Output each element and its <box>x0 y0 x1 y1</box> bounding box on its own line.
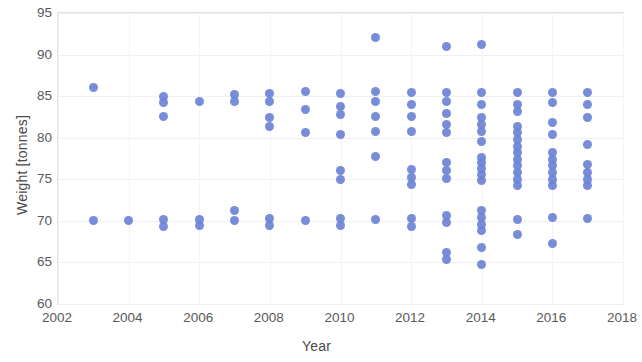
data-point <box>265 97 274 106</box>
y-tick-label: 80 <box>18 129 52 144</box>
data-point <box>477 243 486 252</box>
data-point <box>371 112 380 121</box>
x-tick-label: 2018 <box>594 310 642 325</box>
data-point <box>477 100 486 109</box>
data-point <box>301 128 310 137</box>
x-tick-label: 2008 <box>241 310 297 325</box>
data-point <box>371 127 380 136</box>
gridline-vertical <box>623 13 624 304</box>
data-point <box>195 97 204 106</box>
gridline-vertical <box>199 13 200 304</box>
data-point <box>159 98 168 107</box>
gridline-vertical <box>270 13 271 304</box>
gridline-vertical <box>58 13 59 304</box>
data-point <box>265 221 274 230</box>
gridline-vertical <box>341 13 342 304</box>
data-point <box>442 109 451 118</box>
data-point <box>442 218 451 227</box>
data-point <box>407 127 416 136</box>
data-point <box>371 33 380 42</box>
data-point <box>159 112 168 121</box>
data-point <box>583 181 592 190</box>
data-point <box>442 97 451 106</box>
data-point <box>548 239 557 248</box>
x-tick-label: 2004 <box>100 310 156 325</box>
y-tick-label: 75 <box>18 171 52 186</box>
plot-area <box>57 12 624 305</box>
data-point <box>548 98 557 107</box>
data-point <box>477 137 486 146</box>
x-axis-title: Year <box>0 338 633 354</box>
data-point <box>548 130 557 139</box>
x-tick-label: 2012 <box>382 310 438 325</box>
data-point <box>371 87 380 96</box>
data-point <box>513 107 522 116</box>
data-point <box>548 213 557 222</box>
data-point <box>477 40 486 49</box>
data-point <box>407 88 416 97</box>
data-point <box>195 221 204 230</box>
data-point <box>301 216 310 225</box>
gridline-horizontal <box>58 304 623 305</box>
data-point <box>230 206 239 215</box>
data-point <box>477 176 486 185</box>
y-tick-label: 85 <box>18 88 52 103</box>
data-point <box>407 180 416 189</box>
data-point <box>442 128 451 137</box>
data-point <box>583 100 592 109</box>
data-point <box>513 215 522 224</box>
gridline-vertical <box>411 13 412 304</box>
y-tick-label: 90 <box>18 46 52 61</box>
data-point <box>407 112 416 121</box>
data-point <box>89 216 98 225</box>
y-tick-label: 65 <box>18 254 52 269</box>
data-point <box>265 113 274 122</box>
data-point <box>583 214 592 223</box>
x-tick-label: 2002 <box>29 310 85 325</box>
data-point <box>230 97 239 106</box>
data-point <box>159 222 168 231</box>
data-point <box>583 113 592 122</box>
data-point <box>371 215 380 224</box>
data-point <box>513 88 522 97</box>
data-point <box>583 140 592 149</box>
data-point <box>442 174 451 183</box>
data-point <box>477 127 486 136</box>
x-tick-label: 2010 <box>312 310 368 325</box>
data-point <box>336 110 345 119</box>
data-point <box>265 122 274 131</box>
gridline-vertical <box>129 13 130 304</box>
data-point <box>477 260 486 269</box>
x-tick-label: 2014 <box>453 310 509 325</box>
data-point <box>336 221 345 230</box>
data-point <box>407 222 416 231</box>
y-tick-label: 70 <box>18 212 52 227</box>
data-point <box>548 181 557 190</box>
x-tick-label: 2016 <box>523 310 579 325</box>
y-tick-label: 95 <box>18 5 52 20</box>
data-point <box>336 175 345 184</box>
data-point <box>513 230 522 239</box>
data-point <box>548 118 557 127</box>
data-point <box>89 83 98 92</box>
data-point <box>477 226 486 235</box>
data-point <box>442 42 451 51</box>
data-point <box>513 181 522 190</box>
data-point <box>301 87 310 96</box>
y-tick-label: 60 <box>18 296 52 311</box>
x-tick-label: 2006 <box>170 310 226 325</box>
data-point <box>124 216 133 225</box>
data-point <box>230 216 239 225</box>
data-point <box>336 130 345 139</box>
data-point <box>371 152 380 161</box>
data-point <box>371 97 380 106</box>
y-axis-tick-labels: 6065707580859095 <box>0 0 52 362</box>
data-point <box>301 105 310 114</box>
data-point <box>407 100 416 109</box>
